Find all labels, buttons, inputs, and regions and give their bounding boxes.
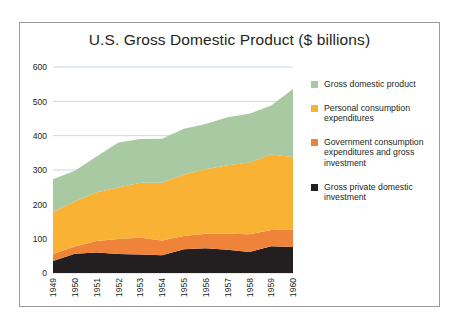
legend-swatch-icon (311, 81, 318, 88)
x-axis-tick-label: 1951 (92, 278, 102, 297)
y-axis-tick-label: 400 (33, 131, 48, 141)
x-axis-tick-label: 1952 (114, 278, 124, 297)
y-axis-tick-label: 0 (42, 268, 47, 278)
y-axis-tick-label: 500 (33, 97, 48, 107)
x-axis-tick-labels: 1949195019511952195319541955195619571958… (48, 278, 298, 297)
legend-item-personal-consumption-expenditures[interactable]: Personal consumption expenditures (311, 103, 437, 124)
y-axis-tick-labels: 0100200300400500600 (33, 62, 48, 278)
x-axis-tick-label: 1960 (288, 278, 298, 297)
x-axis-tick-label: 1955 (179, 278, 189, 297)
y-axis-tick-label: 600 (33, 62, 48, 72)
chart-legend: Gross domestic productPersonal consumpti… (311, 79, 437, 216)
x-axis-tick-label: 1949 (48, 278, 58, 297)
legend-item-gross-private-domestic-investment[interactable]: Gross private domestic investment (311, 182, 437, 203)
x-axis-tick-label: 1959 (266, 278, 276, 297)
x-axis-tick-label: 1957 (223, 278, 233, 297)
x-axis-tick-label: 1958 (245, 278, 255, 297)
legend-item-label: Gross private domestic investment (324, 182, 437, 203)
legend-item-label: Government consumption expenditures and … (324, 137, 437, 169)
legend-swatch-icon (311, 105, 318, 112)
x-axis-tick-label: 1954 (157, 278, 167, 297)
y-axis-tick-label: 200 (33, 200, 48, 210)
legend-item-gross-domestic-product[interactable]: Gross domestic product (311, 79, 437, 90)
y-axis-tick-label: 300 (33, 165, 48, 175)
y-axis-tick-label: 100 (33, 234, 48, 244)
legend-item-label: Personal consumption expenditures (324, 103, 437, 124)
legend-item-government-consumption[interactable]: Government consumption expenditures and … (311, 137, 437, 169)
x-axis-tick-label: 1950 (70, 278, 80, 297)
x-axis-tick-label: 1953 (135, 278, 145, 297)
chart-figure-frame: U.S. Gross Domestic Product ($ billions)… (19, 22, 440, 307)
area-series-group (53, 89, 293, 273)
legend-swatch-icon (311, 139, 318, 146)
legend-item-label: Gross domestic product (324, 79, 416, 90)
legend-swatch-icon (311, 184, 318, 191)
x-axis-tick-label: 1956 (201, 278, 211, 297)
